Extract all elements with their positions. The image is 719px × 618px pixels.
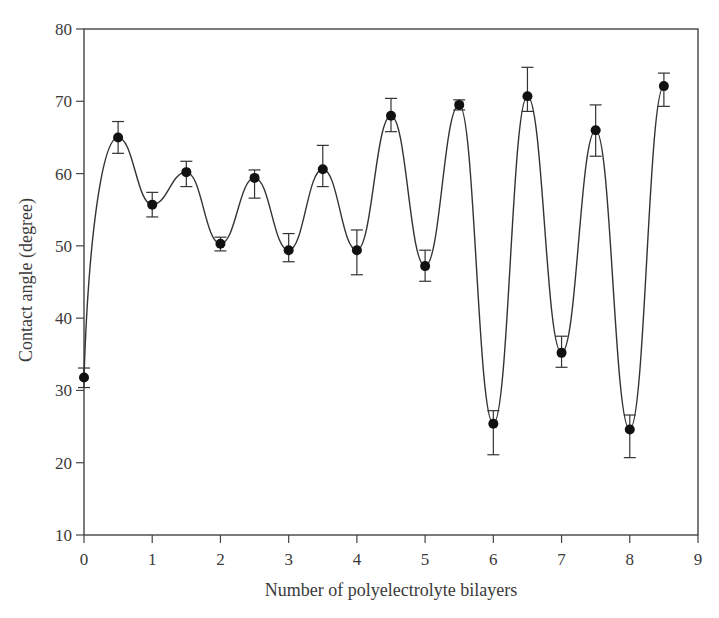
y-tick-label: 30: [55, 381, 72, 400]
data-point-marker: [625, 424, 635, 434]
y-axis: 1020304050607080: [55, 20, 84, 545]
spline-curve: [84, 86, 664, 429]
x-tick-label: 1: [148, 550, 157, 569]
data-point-marker: [113, 132, 123, 142]
contact-angle-chart: 1020304050607080 0123456789 Number of po…: [0, 0, 719, 618]
y-tick-label: 80: [55, 20, 72, 39]
y-axis-label: Contact angle (degree): [16, 198, 37, 362]
x-tick-label: 3: [284, 550, 293, 569]
data-curve: [84, 86, 664, 429]
data-point-marker: [79, 372, 89, 382]
x-tick-label: 2: [216, 550, 225, 569]
y-tick-label: 70: [55, 92, 72, 111]
data-point-marker: [352, 245, 362, 255]
x-axis-label: Number of polyelectrolyte bilayers: [265, 580, 517, 600]
data-point-marker: [215, 239, 225, 249]
error-bars: [78, 67, 670, 457]
data-point-marker: [181, 167, 191, 177]
x-tick-label: 0: [80, 550, 89, 569]
data-point-marker: [250, 173, 260, 183]
data-point-marker: [659, 81, 669, 91]
x-tick-label: 7: [557, 550, 566, 569]
x-tick-label: 5: [421, 550, 430, 569]
x-axis: 0123456789: [80, 535, 703, 569]
data-point-marker: [557, 348, 567, 358]
x-tick-label: 4: [353, 550, 362, 569]
x-tick-label: 6: [489, 550, 498, 569]
x-tick-label: 9: [694, 550, 703, 569]
y-tick-label: 20: [55, 454, 72, 473]
y-tick-label: 60: [55, 165, 72, 184]
data-point-marker: [318, 164, 328, 174]
data-markers: [79, 81, 669, 434]
data-point-marker: [386, 111, 396, 121]
data-point-marker: [284, 245, 294, 255]
x-tick-label: 8: [626, 550, 635, 569]
data-point-marker: [420, 261, 430, 271]
data-point-marker: [488, 419, 498, 429]
y-tick-label: 40: [55, 309, 72, 328]
data-point-marker: [522, 91, 532, 101]
data-point-marker: [454, 100, 464, 110]
y-tick-label: 50: [55, 237, 72, 256]
data-point-marker: [147, 200, 157, 210]
data-point-marker: [591, 125, 601, 135]
y-tick-label: 10: [55, 526, 72, 545]
